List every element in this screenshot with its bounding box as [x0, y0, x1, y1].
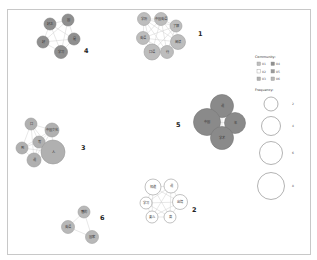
node[interactable]: 口语 — [144, 44, 160, 60]
legend-frequency-circle — [264, 97, 278, 111]
legend-community-item: 01 — [257, 62, 266, 66]
nodes-layer: 学历中国英语了解英语阅读口语行知道说学习出境要么高口中国文化写到人说好之国好是学… — [16, 13, 246, 244]
legend-community-id: 01 — [262, 62, 266, 66]
legend-community-id: 06 — [276, 77, 280, 81]
node-label: 好之 — [47, 21, 54, 26]
node-label: 懂的 — [81, 209, 87, 214]
node[interactable]: 学习 — [140, 197, 152, 209]
legend-swatch — [271, 62, 275, 66]
node[interactable]: 出境 — [173, 195, 188, 210]
node[interactable]: 说 — [27, 153, 41, 167]
legend-community-id: 05 — [276, 70, 280, 74]
node[interactable]: 知道 — [145, 179, 161, 195]
node-label: 口 — [30, 122, 33, 126]
legend-swatch — [271, 70, 275, 74]
legend-frequency-circle — [262, 117, 281, 136]
node[interactable]: 人 — [41, 140, 65, 164]
node-label: 英语 — [65, 224, 72, 229]
node[interactable]: 是 — [68, 33, 80, 45]
legend-frequency-value: 8 — [292, 184, 294, 188]
node[interactable]: 学术 — [211, 127, 234, 150]
node-label: 了解 — [173, 23, 180, 28]
node[interactable]: 了解 — [170, 20, 182, 32]
legend-community-item: 04 — [271, 62, 280, 66]
node[interactable]: 行 — [161, 46, 174, 59]
community-number: 1 — [198, 30, 203, 38]
legend-swatch — [257, 62, 261, 66]
legend-swatch — [257, 70, 261, 74]
legend-frequency-value: 4 — [292, 124, 294, 128]
community-number: 2 — [192, 206, 197, 214]
node-label: 出境 — [177, 199, 184, 204]
legend-community-id: 04 — [276, 62, 280, 66]
node-label: 要么 — [149, 214, 156, 219]
node[interactable]: 学习 — [55, 46, 68, 59]
node-label: 中国英语 — [155, 16, 168, 21]
community-number: 6 — [100, 214, 105, 222]
legend-community-item: 06 — [271, 77, 280, 81]
community-number: 3 — [81, 144, 86, 152]
node[interactable]: 中国文化 — [45, 123, 59, 137]
node-label: 国家 — [89, 234, 96, 239]
legend: Community: 010203040506 Frequency: 2468 — [255, 55, 294, 200]
node[interactable]: 高 — [164, 211, 176, 223]
legend-frequency-circle — [258, 173, 285, 200]
node-label: 学术 — [219, 135, 226, 140]
node-label: 国 — [67, 17, 70, 22]
node-label: 写 — [38, 140, 41, 144]
node-label: 学习 — [58, 49, 64, 54]
node[interactable]: 阅读 — [171, 35, 186, 50]
legend-community-item: 03 — [257, 77, 266, 81]
network-diagram: 学历中国英语了解英语阅读口语行知道说学习出境要么高口中国文化写到人说好之国好是学… — [0, 0, 317, 260]
legend-community-item: 05 — [271, 70, 280, 74]
node[interactable]: 懂的 — [78, 206, 90, 218]
legend-frequency-circle — [260, 142, 283, 165]
node[interactable]: 英语 — [137, 32, 150, 45]
node-label: 学习 — [143, 200, 149, 205]
legend-frequency-value: 6 — [292, 151, 294, 155]
legend-frequency-item: 8 — [258, 173, 295, 200]
legend-frequency-item: 2 — [264, 97, 294, 111]
node[interactable]: 好 — [37, 36, 49, 48]
node-label: 口语 — [149, 49, 156, 54]
legend-frequency-title: Frequency: — [255, 88, 273, 92]
legend-frequency-circles: 2468 — [258, 97, 295, 200]
legend-community-id: 02 — [262, 70, 266, 74]
community-number: 5 — [176, 121, 181, 129]
legend-frequency-item: 6 — [260, 142, 295, 165]
legend-frequency-item: 4 — [262, 117, 295, 136]
node-label: 高 — [169, 214, 172, 219]
node[interactable]: 学历 — [138, 13, 151, 26]
legend-community-swatches: 010203040506 — [257, 62, 280, 81]
node-label: 到 — [21, 145, 24, 150]
legend-community-id: 03 — [262, 77, 266, 81]
node-label: 学历 — [141, 16, 148, 21]
legend-frequency-value: 2 — [292, 102, 294, 106]
node[interactable]: 好之 — [44, 18, 56, 30]
node[interactable]: 到 — [16, 142, 28, 154]
community-labels-layer: 123456 — [81, 30, 203, 222]
community-number: 4 — [84, 47, 89, 55]
node[interactable]: 国家 — [86, 231, 99, 244]
node[interactable]: 要么 — [146, 211, 158, 223]
node[interactable]: 国 — [62, 14, 74, 26]
legend-swatch — [271, 77, 275, 81]
node[interactable]: 说 — [164, 179, 178, 193]
legend-community-item: 02 — [257, 70, 266, 74]
node[interactable]: 口 — [25, 118, 37, 130]
node-label: 知道 — [150, 184, 157, 189]
node[interactable]: 中国英语 — [155, 13, 169, 26]
node[interactable]: 英语 — [62, 221, 75, 234]
node-label: 英语 — [140, 35, 147, 40]
legend-swatch — [257, 77, 261, 81]
node-label: 阅读 — [175, 39, 182, 44]
node-label: 中国文化 — [46, 127, 59, 132]
node-label: 中国 — [204, 119, 210, 124]
legend-community-title: Community: — [255, 55, 276, 59]
